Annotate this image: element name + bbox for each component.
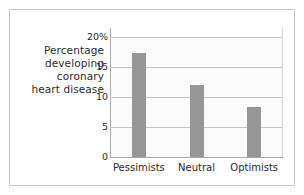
y-tick-label: 0 bbox=[74, 151, 108, 162]
y-tick-label: 10 bbox=[74, 91, 108, 102]
x-category-label: Pessimists bbox=[113, 162, 165, 173]
bar-pessimists bbox=[132, 53, 146, 157]
bar-optimists bbox=[247, 107, 261, 157]
x-category-label: Optimists bbox=[230, 162, 278, 173]
gridline bbox=[110, 157, 283, 158]
chart-figure: Percentage developing coronary heart dis… bbox=[0, 0, 304, 195]
gridline bbox=[110, 37, 283, 38]
plot-area bbox=[110, 37, 283, 157]
y-tick-label: 20% bbox=[74, 31, 108, 42]
y-tick-label: 15 bbox=[74, 61, 108, 72]
y-tick-label: 5 bbox=[74, 121, 108, 132]
y-axis-title-line-1: Percentage bbox=[12, 44, 104, 57]
bar-neutral bbox=[190, 85, 204, 157]
x-category-label: Neutral bbox=[178, 162, 215, 173]
